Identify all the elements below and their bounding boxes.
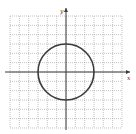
axes [5,8,130,130]
coordinate-plane: x y [0,0,136,134]
y-axis-label: y [59,7,64,15]
x-axis-label: x [127,74,131,81]
y-axis-arrow [64,8,68,12]
